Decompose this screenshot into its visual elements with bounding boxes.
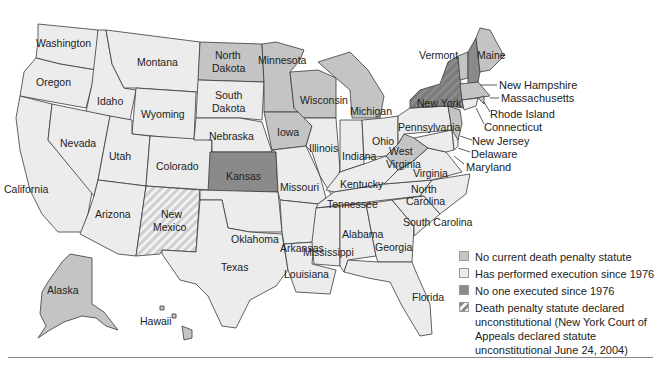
- label-colorado: Colorado: [156, 160, 199, 172]
- label-mississippi: Mississippi: [303, 246, 354, 258]
- label-iowa: Iowa: [277, 126, 299, 138]
- label-wyoming: Wyoming: [141, 108, 185, 120]
- label-illinois: Illinois: [309, 142, 338, 154]
- swatch-unconstitutional: [459, 302, 469, 312]
- legend-item-not-executed: No one executed since 1976: [459, 284, 659, 298]
- label-maryland: Maryland: [466, 161, 511, 173]
- bottom-rule: [8, 357, 653, 358]
- label-vermont: Vermont: [419, 49, 458, 61]
- legend-item-unconstitutional: Death penalty statute declared unconstit…: [459, 301, 659, 357]
- legend-label: Death penalty statute declared unconstit…: [475, 301, 659, 357]
- label-california: California: [4, 183, 49, 195]
- label-alabama: Alabama: [342, 228, 384, 240]
- label-connecticut: Connecticut: [484, 121, 542, 133]
- label-delaware: Delaware: [471, 148, 517, 160]
- label-new-mexico-1: New: [161, 208, 182, 220]
- label-south-dakota-1: South: [215, 89, 243, 101]
- legend-item-no-statute: No current death penalty statute: [459, 250, 659, 264]
- state-indiana[interactable]: [340, 120, 364, 172]
- label-wisconsin: Wisconsin: [300, 94, 348, 106]
- label-nebraska: Nebraska: [209, 130, 254, 142]
- label-montana: Montana: [137, 56, 178, 68]
- label-west-virginia-2: Virginia: [386, 158, 421, 170]
- label-utah: Utah: [109, 150, 131, 162]
- swatch-no-statute: [459, 251, 469, 261]
- legend-item-executed: Has performed execution since 1976: [459, 267, 659, 281]
- state-connecticut[interactable]: [462, 98, 478, 110]
- swatch-not-executed: [459, 285, 469, 295]
- state-alaska[interactable]: [38, 254, 118, 338]
- label-minnesota: Minnesota: [258, 54, 307, 66]
- label-washington: Washington: [36, 37, 91, 49]
- label-hawaii: Hawaii: [140, 315, 172, 327]
- label-missouri: Missouri: [280, 181, 319, 193]
- label-maine: Maine: [477, 49, 506, 61]
- label-idaho: Idaho: [97, 95, 123, 107]
- label-west-virginia-1: West: [389, 145, 413, 157]
- legend: No current death penalty statute Has per…: [459, 250, 659, 360]
- label-new-jersey: New Jersey: [472, 135, 530, 147]
- label-nevada: Nevada: [60, 137, 96, 149]
- label-new-mexico-2: Mexico: [153, 221, 186, 233]
- label-massachusetts: Massachusetts: [501, 92, 575, 104]
- legend-label: Has performed execution since 1976: [475, 267, 654, 281]
- label-north-carolina-2: Carolina: [406, 195, 445, 207]
- label-louisiana: Louisiana: [284, 268, 329, 280]
- label-south-carolina: South Carolina: [403, 216, 473, 228]
- label-new-hampshire: New Hampshire: [499, 79, 577, 91]
- label-arizona: Arizona: [95, 208, 131, 220]
- label-new-york: New York: [417, 97, 462, 109]
- label-indiana: Indiana: [342, 150, 377, 162]
- label-north-carolina-1: North: [411, 183, 437, 195]
- label-kansas: Kansas: [226, 170, 261, 182]
- swatch-executed: [459, 268, 469, 278]
- label-georgia: Georgia: [375, 241, 413, 253]
- legend-label: No current death penalty statute: [475, 250, 632, 264]
- label-tennessee: Tennessee: [327, 198, 378, 210]
- label-rhode-island: Rhode Island: [490, 108, 555, 120]
- label-michigan: Michigan: [350, 105, 392, 117]
- label-kentucky: Kentucky: [340, 178, 384, 190]
- label-oklahoma: Oklahoma: [231, 233, 279, 245]
- label-alaska: Alaska: [47, 284, 79, 296]
- label-oregon: Oregon: [36, 76, 71, 88]
- legend-label: No one executed since 1976: [475, 284, 614, 298]
- state-vermont[interactable]: [458, 52, 468, 80]
- label-north-dakota-2: Dakota: [212, 62, 245, 74]
- label-north-dakota-1: North: [215, 49, 241, 61]
- label-pennsylvania: Pennsylvania: [398, 121, 461, 133]
- label-florida: Florida: [412, 291, 444, 303]
- label-south-dakota-2: Dakota: [212, 102, 245, 114]
- label-texas: Texas: [221, 261, 248, 273]
